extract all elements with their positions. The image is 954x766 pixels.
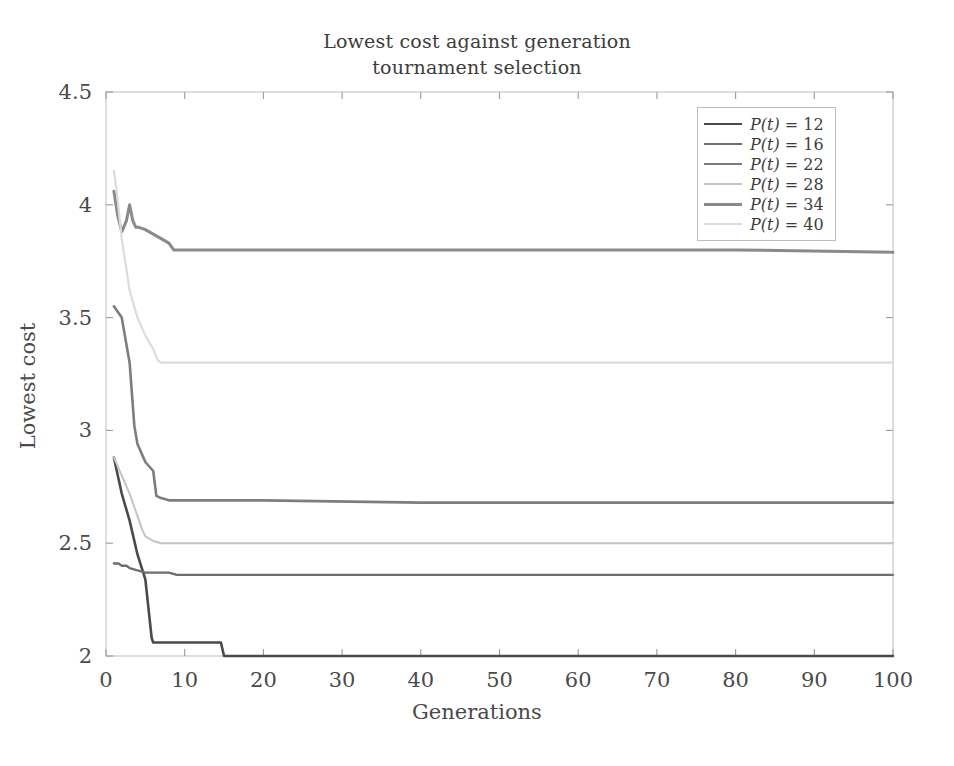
x-tick-label: 90	[801, 668, 828, 692]
legend-line-swatch	[704, 203, 742, 206]
x-tick-label: 40	[407, 668, 434, 692]
y-tick-label: 4.5	[20, 80, 92, 104]
x-tick-label: 10	[171, 668, 198, 692]
legend-line-swatch	[704, 183, 742, 185]
legend-item-label: P(t) = 16	[750, 135, 824, 154]
x-tick-label: 70	[644, 668, 671, 692]
chart-legend: P(t) = 12P(t) = 16P(t) = 22P(t) = 28P(t)…	[697, 107, 836, 241]
legend-line-swatch	[704, 163, 742, 165]
x-tick-label: 50	[486, 668, 513, 692]
y-axis-label: Lowest cost	[16, 296, 40, 476]
series-line-22	[114, 306, 893, 502]
data-series-lines	[114, 171, 893, 656]
chart-figure: Lowest cost against generation tournamen…	[0, 0, 954, 766]
y-tick-label: 4	[20, 193, 92, 217]
x-tick-label: 30	[329, 668, 356, 692]
legend-item-22: P(t) = 22	[704, 154, 828, 174]
legend-item-40: P(t) = 40	[704, 214, 828, 234]
legend-item-label: P(t) = 12	[750, 115, 824, 134]
legend-item-label: P(t) = 40	[750, 215, 824, 234]
legend-line-swatch	[704, 223, 742, 225]
x-axis-label: Generations	[0, 700, 954, 724]
legend-item-34: P(t) = 34	[704, 194, 828, 214]
legend-item-label: P(t) = 22	[750, 155, 824, 174]
series-line-16	[114, 564, 893, 575]
x-tick-label: 80	[722, 668, 749, 692]
x-tick-label: 60	[565, 668, 592, 692]
series-line-12	[114, 457, 893, 656]
x-tick-label: 20	[250, 668, 277, 692]
legend-line-swatch	[704, 143, 742, 145]
legend-item-12: P(t) = 12	[704, 114, 828, 134]
legend-line-swatch	[704, 123, 742, 125]
legend-item-label: P(t) = 28	[750, 175, 824, 194]
legend-item-label: P(t) = 34	[750, 195, 824, 214]
legend-item-28: P(t) = 28	[704, 174, 828, 194]
x-tick-label: 100	[873, 668, 913, 692]
y-tick-label: 2.5	[20, 531, 92, 555]
x-tick-label: 0	[99, 668, 112, 692]
y-tick-label: 2	[20, 644, 92, 668]
legend-item-16: P(t) = 16	[704, 134, 828, 154]
